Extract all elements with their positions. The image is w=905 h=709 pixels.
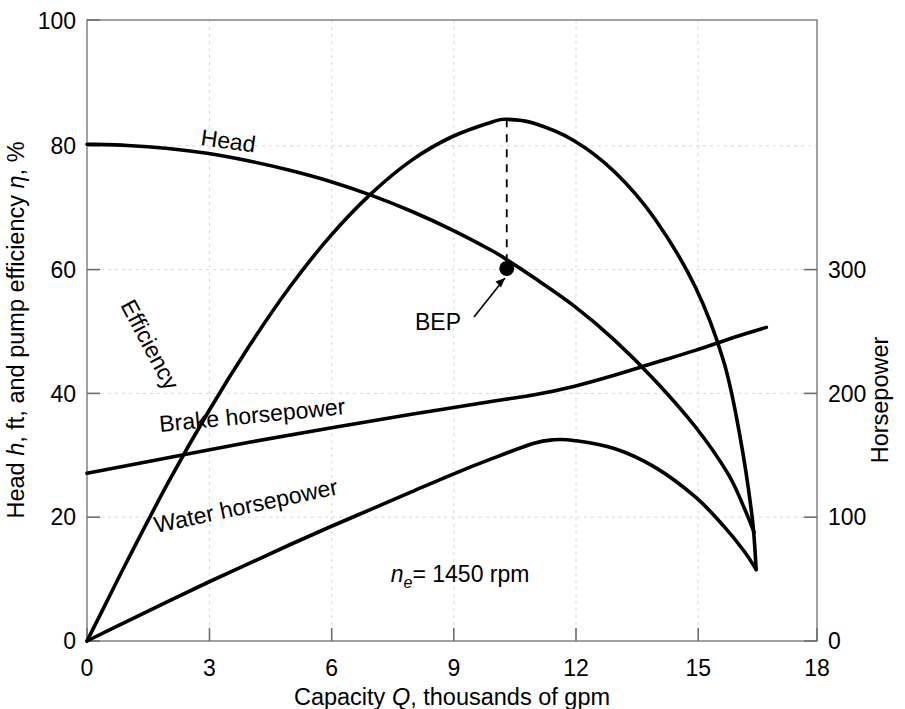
bottom-axis-ticks	[87, 628, 817, 641]
y-axis-title-post: , ft, and pump efficiency	[3, 188, 29, 442]
ticklabel-bottom-18: 18	[804, 655, 830, 681]
bep-marker-dot	[499, 261, 514, 276]
ticklabel-bottom-0: 0	[81, 655, 94, 681]
speed-symbol: n	[391, 561, 404, 587]
bottom-tick-labels: 0 3 6 9 12 15 18	[81, 655, 830, 681]
y-axis-title-h: h	[3, 443, 29, 456]
ticklabel-right-100: 100	[828, 504, 866, 530]
pump-performance-chart: 100 80 60 40 20 0 300 200 100 0 0 3 6 9 …	[0, 0, 905, 709]
left-axis-ticks	[87, 20, 100, 641]
ticklabel-left-60: 60	[50, 257, 76, 283]
y-axis-title-eta: η	[3, 175, 29, 188]
x-axis-title: Capacity Q, thousands of gpm	[294, 684, 610, 709]
speed-annotation: ne= 1450 rpm	[391, 561, 530, 591]
ticklabel-left-0: 0	[63, 628, 76, 654]
right-axis-ticks	[804, 270, 817, 641]
ticklabel-bottom-3: 3	[203, 655, 216, 681]
x-axis-title-pre: Capacity	[294, 684, 392, 709]
curve-head	[87, 144, 754, 532]
y-axis-title-pre: Head	[3, 456, 29, 519]
x-axis-title-post: , thousands of gpm	[410, 684, 610, 709]
curve-label-water-horsepower: Water horsepower	[152, 473, 341, 537]
speed-subscript: e	[404, 574, 413, 591]
ticklabel-bottom-15: 15	[685, 655, 711, 681]
curve-water-horsepower	[87, 439, 756, 641]
ticklabel-left-20: 20	[50, 504, 76, 530]
curve-label-efficiency: Efficiency	[116, 295, 185, 394]
ticklabel-left-100: 100	[38, 8, 76, 34]
chart-canvas: 100 80 60 40 20 0 300 200 100 0 0 3 6 9 …	[0, 0, 905, 709]
y-axis-title-tail: , %	[3, 141, 29, 175]
ticklabel-bottom-9: 9	[447, 655, 460, 681]
ticklabel-bottom-6: 6	[325, 655, 338, 681]
bep-label: BEP	[415, 309, 461, 335]
left-tick-labels: 100 80 60 40 20 0	[38, 8, 76, 654]
bep-arrow-head	[496, 278, 506, 288]
ticklabel-left-40: 40	[50, 381, 76, 407]
ticklabel-left-80: 80	[50, 133, 76, 159]
speed-value: = 1450 rpm	[412, 561, 529, 587]
curve-brake-horsepower	[87, 327, 766, 473]
y-axis-title: Head h, ft, and pump efficiency η, %	[3, 141, 29, 518]
y2-axis-title: Horsepower	[867, 336, 893, 463]
ticklabel-right-300: 300	[828, 257, 866, 283]
ticklabel-right-200: 200	[828, 381, 866, 407]
right-tick-labels: 300 200 100 0	[828, 257, 866, 654]
x-axis-title-q: Q	[392, 684, 410, 709]
ticklabel-right-0: 0	[828, 628, 841, 654]
ticklabel-bottom-12: 12	[563, 655, 589, 681]
